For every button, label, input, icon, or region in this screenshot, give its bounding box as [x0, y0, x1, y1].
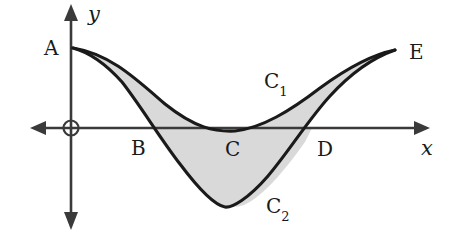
point-label-c: C: [225, 139, 240, 159]
y-axis-bottom-arrowhead: [64, 212, 78, 230]
curve-label-c1-main: C: [264, 69, 279, 93]
x-axis-right-arrowhead: [414, 121, 430, 135]
point-label-a: A: [44, 38, 58, 58]
curve-c1: [73, 48, 395, 131]
y-axis-label: y: [88, 4, 100, 25]
point-label-d: D: [317, 139, 333, 159]
curve-label-c2-main: C: [266, 194, 281, 218]
x-axis-label: x: [421, 138, 433, 159]
figure-svg: [0, 0, 459, 243]
curve-label-c2: C2: [266, 196, 290, 220]
point-label-e: E: [409, 42, 424, 62]
figure-container: A B C D E y x C1 C2: [0, 0, 459, 243]
curve-label-c2-subscript: 2: [281, 209, 289, 224]
y-axis-top-arrowhead: [64, 4, 78, 21]
curve-label-c1: C1: [264, 71, 288, 95]
point-label-b: B: [131, 138, 146, 158]
curve-label-c1-subscript: 1: [279, 84, 287, 99]
x-axis-left-arrowhead: [30, 121, 46, 135]
